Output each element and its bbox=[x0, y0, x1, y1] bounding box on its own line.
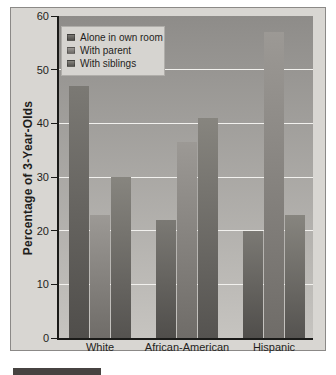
y-tick-label: 60 bbox=[15, 9, 49, 23]
y-tick-label: 20 bbox=[15, 224, 49, 238]
bar bbox=[243, 231, 263, 338]
bar bbox=[198, 118, 218, 338]
y-tick-label: 10 bbox=[15, 277, 49, 291]
bar bbox=[69, 86, 89, 338]
bar bbox=[156, 220, 176, 338]
legend-item: With siblings bbox=[67, 57, 161, 70]
y-tick-label: 50 bbox=[15, 63, 49, 77]
legend-label: Alone in own room bbox=[80, 32, 163, 43]
x-category-label: Hispanic bbox=[214, 341, 334, 353]
legend-swatch bbox=[67, 34, 75, 41]
chart-panel: Percentage of 3-Year-Olds 0102030405060 … bbox=[10, 7, 326, 351]
legend-label: With parent bbox=[80, 45, 131, 56]
legend-item: With parent bbox=[67, 44, 161, 57]
bar bbox=[177, 142, 197, 338]
legend-swatch bbox=[67, 47, 75, 54]
legend-swatch bbox=[67, 60, 75, 67]
legend-item: Alone in own room bbox=[67, 31, 161, 44]
bar bbox=[111, 177, 131, 338]
bar bbox=[285, 215, 305, 338]
plot-area: Alone in own roomWith parentWith sibling… bbox=[57, 16, 313, 340]
bar bbox=[90, 215, 110, 338]
figure: Percentage of 3-Year-Olds 0102030405060 … bbox=[0, 0, 336, 375]
y-tick-label: 30 bbox=[15, 170, 49, 184]
bar bbox=[264, 32, 284, 338]
caption-banner bbox=[13, 368, 101, 375]
y-tick-label: 40 bbox=[15, 116, 49, 130]
legend: Alone in own roomWith parentWith sibling… bbox=[61, 26, 165, 76]
legend-label: With siblings bbox=[80, 58, 136, 69]
